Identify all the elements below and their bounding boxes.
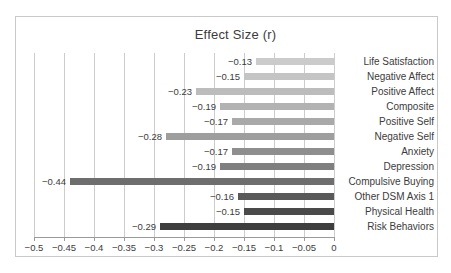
category-label: Life Satisfaction xyxy=(338,56,434,67)
gridline xyxy=(64,53,65,237)
category-label: Physical Health xyxy=(338,206,434,217)
value-label: −0.29 xyxy=(132,221,156,232)
x-tick-label: −0.3 xyxy=(137,241,171,254)
x-tick xyxy=(154,237,155,241)
x-tick-label: −0.1 xyxy=(257,241,291,254)
gridline xyxy=(214,53,215,237)
x-tick-label: 0 xyxy=(317,241,351,254)
x-tick-label: −0.5 xyxy=(17,241,51,254)
x-tick xyxy=(184,237,185,241)
category-label: Risk Behaviors xyxy=(338,221,434,232)
x-tick xyxy=(214,237,215,241)
category-labels-column: Life SatisfactionNegative AffectPositive… xyxy=(338,53,434,237)
category-label: Negative Affect xyxy=(338,71,434,82)
gridline xyxy=(94,53,95,237)
x-tick xyxy=(64,237,65,241)
gridline xyxy=(334,53,335,237)
x-tick xyxy=(94,237,95,241)
bar xyxy=(256,58,334,65)
value-label: −0.28 xyxy=(138,131,162,142)
value-label: −0.23 xyxy=(168,86,192,97)
value-label: −0.13 xyxy=(228,56,252,67)
bar xyxy=(220,163,334,170)
value-label: −0.17 xyxy=(204,146,228,157)
category-label: Negative Self xyxy=(338,131,434,142)
figure-frame: Effect Size (r) −0.13−0.15−0.23−0.19−0.1… xyxy=(15,16,438,257)
gridline xyxy=(124,53,125,237)
bar xyxy=(232,118,334,125)
value-label: −0.19 xyxy=(192,161,216,172)
bar xyxy=(196,88,334,95)
value-label: −0.17 xyxy=(204,116,228,127)
bar xyxy=(220,103,334,110)
bar xyxy=(160,223,334,230)
x-tick-label: −0.4 xyxy=(77,241,111,254)
x-tick-label: −0.45 xyxy=(47,241,81,254)
category-label: Anxiety xyxy=(338,146,434,157)
category-label: Other DSM Axis 1 xyxy=(338,191,434,202)
category-label: Positive Affect xyxy=(338,86,434,97)
category-label: Composite xyxy=(338,101,434,112)
x-tick-label: −0.15 xyxy=(227,241,261,254)
x-tick xyxy=(124,237,125,241)
bar xyxy=(166,133,334,140)
x-tick xyxy=(304,237,305,241)
x-tick-label: −0.05 xyxy=(287,241,321,254)
value-label: −0.44 xyxy=(42,176,66,187)
x-tick-label: −0.25 xyxy=(167,241,201,254)
plot-area: −0.13−0.15−0.23−0.19−0.17−0.28−0.17−0.19… xyxy=(34,53,334,237)
value-label: −0.16 xyxy=(210,191,234,202)
x-tick xyxy=(334,237,335,241)
category-label: Positive Self xyxy=(338,116,434,127)
x-tick-label: −0.35 xyxy=(107,241,141,254)
bar xyxy=(244,208,334,215)
x-tick xyxy=(274,237,275,241)
x-labels-row: −0.5−0.45−0.4−0.35−0.3−0.25−0.2−0.15−0.1… xyxy=(16,241,437,254)
bar xyxy=(70,178,334,185)
category-label: Depression xyxy=(338,161,434,172)
gridline xyxy=(154,53,155,237)
x-tick xyxy=(34,237,35,241)
bar xyxy=(238,193,334,200)
x-tick-label: −0.2 xyxy=(197,241,231,254)
category-label: Compulsive Buying xyxy=(338,176,434,187)
bar xyxy=(244,73,334,80)
gridline xyxy=(184,53,185,237)
chart-title: Effect Size (r) xyxy=(34,27,437,42)
value-label: −0.15 xyxy=(216,71,240,82)
x-tick xyxy=(244,237,245,241)
page: { "figure": { "title": "Effect Size (r)"… xyxy=(0,0,451,273)
bar xyxy=(232,148,334,155)
value-label: −0.19 xyxy=(192,101,216,112)
value-label: −0.15 xyxy=(216,206,240,217)
gridline xyxy=(34,53,35,237)
